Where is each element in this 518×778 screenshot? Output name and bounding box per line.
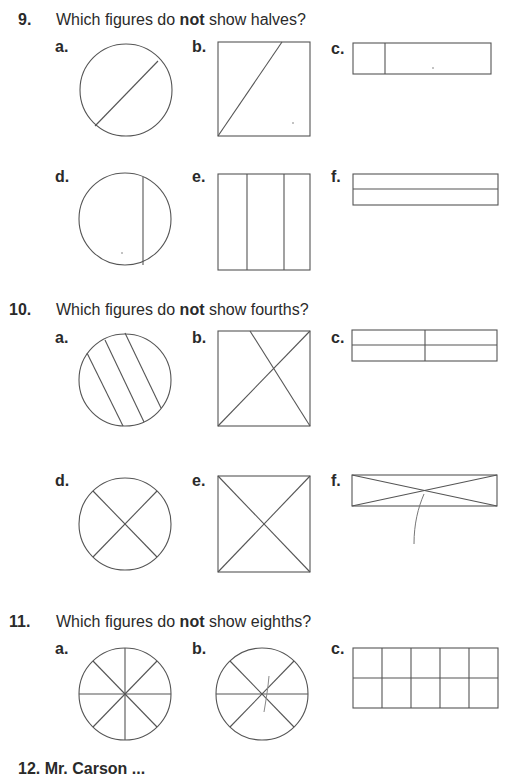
q9-figure-b-square[interactable] bbox=[218, 42, 310, 136]
pencil-mark bbox=[414, 494, 424, 544]
q9-figure-e-square[interactable] bbox=[218, 174, 310, 270]
q11-figure-c-grid[interactable] bbox=[353, 648, 498, 708]
q9-figure-d-circle[interactable] bbox=[79, 173, 171, 265]
q10-figure-d-circle[interactable] bbox=[79, 478, 171, 570]
q10-figure-b-square[interactable] bbox=[218, 331, 310, 426]
q9-figure-c-rectangle[interactable] bbox=[353, 43, 491, 74]
q9-figure-a-circle[interactable] bbox=[80, 44, 172, 136]
q10-figure-e-square[interactable] bbox=[218, 476, 310, 572]
q9-figure-f-rectangle[interactable] bbox=[353, 174, 498, 205]
q10-figure-a-circle[interactable] bbox=[79, 333, 171, 426]
q10-figure-f-rectangle[interactable] bbox=[352, 475, 497, 506]
q10-figure-c-rectangle[interactable] bbox=[352, 330, 497, 361]
q11-figure-a-circle[interactable] bbox=[79, 648, 171, 740]
q11-figure-b-circle[interactable] bbox=[216, 648, 308, 740]
next-question-partial: 12. Mr. Carson ... bbox=[18, 760, 145, 778]
